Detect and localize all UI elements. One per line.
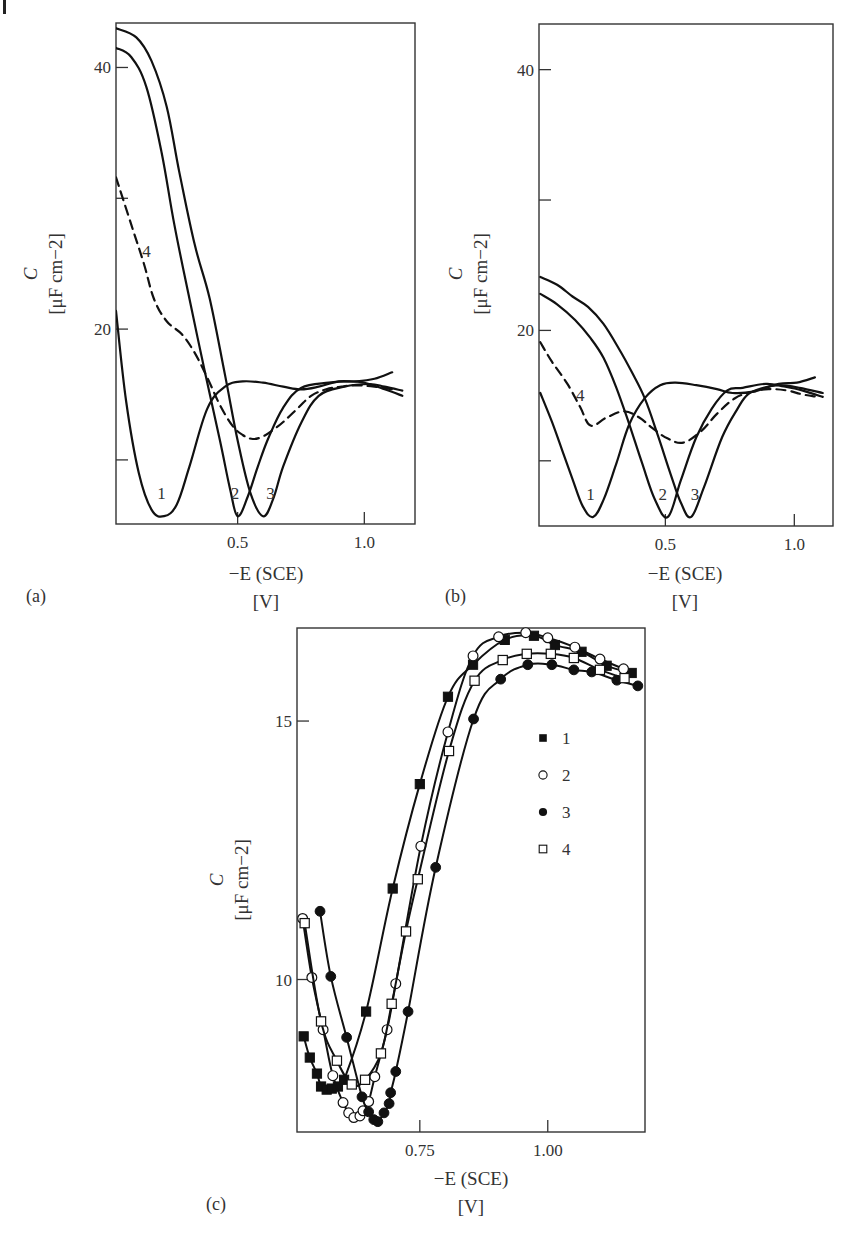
panel-b-y-axis-title: C [μF cm−2] <box>445 233 491 315</box>
panel-c-series-3-point <box>373 1117 383 1127</box>
panel-c-series-1-point <box>299 1032 308 1041</box>
panel-a-y-axis-title: C [μF cm−2] <box>20 233 66 315</box>
panel-c-series-1-point <box>415 780 424 789</box>
panel-b-curve-2 <box>540 294 822 518</box>
panel-c-series-3-point <box>326 972 336 982</box>
panel-a-curve-1-label: 1 <box>157 484 166 503</box>
panel-c-series-3-point <box>633 681 643 691</box>
panel-c-series-3-point <box>569 665 579 675</box>
panel-c-series-3-point <box>384 1099 394 1109</box>
panel-c-series-3-point <box>547 660 557 670</box>
filled-circle-marker-icon <box>539 808 547 816</box>
panel-c-series-4-point <box>316 1017 325 1026</box>
panel-c-series-3-point <box>342 1033 352 1043</box>
panel-c-series-4-point <box>444 746 453 755</box>
panel-c-series-2-point <box>619 664 629 674</box>
panel-c-x-label: −E (SCE) <box>434 1168 509 1190</box>
panel-c-series-1-point <box>305 1053 314 1062</box>
panel-c-series-1-point <box>312 1069 321 1078</box>
legend-label: 4 <box>562 840 571 859</box>
panel-c-legend: 1234 <box>539 729 571 859</box>
filled-square-marker-icon <box>539 734 547 742</box>
panel-c-y-tick-label: 10 <box>275 971 292 990</box>
panel-c-series-4-point <box>347 1080 356 1089</box>
panel-b-curve-1-label: 1 <box>586 485 595 504</box>
panel-c-series-4-line <box>305 653 625 1086</box>
panel-c-series-3-point <box>431 862 441 872</box>
panel-c-frame <box>297 628 645 1132</box>
panel-a-plot-area: 20400.51.01234 <box>94 23 415 552</box>
panel-c-x-tick-label: 1.00 <box>533 1141 563 1160</box>
panel-c-series-1-point <box>388 884 397 893</box>
panel-c-series-3-point <box>496 674 506 684</box>
panel-c-series-4-point <box>522 649 531 658</box>
panel-c-series-3-point <box>469 714 479 724</box>
panel-c-series-3-line <box>320 663 638 1122</box>
panel-c-y-unit: [μF cm−2] <box>231 839 252 921</box>
panel-c-y-axis-title: C [μF cm−2] <box>206 839 252 921</box>
panel-c-series-2-point <box>328 1071 338 1081</box>
panel-c-series-3-point <box>357 1092 367 1102</box>
panel-a-y-label: C <box>20 267 41 280</box>
panel-c-series-1-point <box>443 692 452 701</box>
panel-c-series-3-point <box>403 1007 413 1017</box>
panel-c-y-tick-label: 15 <box>275 712 292 731</box>
panel-b-x-label: −E (SCE) <box>648 563 723 585</box>
panel-c-series-4-point <box>387 999 396 1008</box>
panel-c-series-4-point <box>620 674 629 683</box>
panel-c-series-2-point <box>338 1098 348 1108</box>
panel-c-series-1-point <box>361 1007 370 1016</box>
panel-a-plot: C [μF cm−2] 20400.51.01234 −E (SCE) [V] … <box>20 23 415 612</box>
panel-a-curve-3 <box>116 28 402 516</box>
panel-c-series-4-point <box>360 1075 369 1084</box>
panel-c-series-2-point <box>570 642 580 652</box>
panel-c-series-3-point <box>391 1067 401 1077</box>
panel-a-label: (a) <box>26 586 46 607</box>
panel-b-y-unit: [μF cm−2] <box>470 233 491 315</box>
panel-c-series-4-point <box>470 676 479 685</box>
open-square-marker-icon <box>539 845 547 853</box>
panel-a-y-unit: [μF cm−2] <box>45 233 66 315</box>
panel-c-series-2-point <box>443 727 453 737</box>
panel-a-y-tick-label: 40 <box>94 58 111 77</box>
panel-b-plot: C [μF cm−2] 20400.51.01234 −E (SCE) [V] … <box>445 24 833 612</box>
panel-b-y-label: C <box>445 267 466 280</box>
panel-a-x-tick-label: 1.0 <box>354 533 375 552</box>
legend-entry-3: 3 <box>539 803 571 822</box>
panel-c-series-2-point <box>494 632 504 642</box>
panel-a-curve-2-label: 2 <box>231 484 240 503</box>
panel-c-series-3-point <box>523 660 533 670</box>
panel-c-plot-area: 10150.751.00 <box>275 628 645 1160</box>
legend-label: 1 <box>562 729 571 748</box>
panel-c-label: (c) <box>206 1194 226 1215</box>
panel-b-x-tick-label: 0.5 <box>655 535 676 554</box>
panel-c-series-3-point <box>315 906 325 916</box>
panel-a-x-label: −E (SCE) <box>229 563 304 585</box>
legend-label: 3 <box>562 803 571 822</box>
panel-b-frame <box>539 24 833 526</box>
open-circle-marker-icon <box>539 771 547 779</box>
panel-a-curve-4-label: 4 <box>142 242 151 261</box>
legend-entry-2: 2 <box>539 766 571 785</box>
panel-c-series-2-point <box>468 651 478 661</box>
panel-a-curve-2 <box>116 48 402 516</box>
panel-c-series-2-point <box>543 633 553 643</box>
legend-entry-1: 1 <box>539 729 570 748</box>
panel-c-series-4-point <box>546 649 555 658</box>
panel-c-series-4-point <box>413 875 422 884</box>
panel-c-series-4-point <box>401 927 410 936</box>
panel-b-y-tick-label: 40 <box>517 61 534 80</box>
panel-a-x-unit: [V] <box>253 591 279 612</box>
panel-c-plot: C [μF cm−2] 10150.751.00 1234 −E (SCE) [… <box>206 628 645 1217</box>
panel-b-label: (b) <box>445 586 466 607</box>
panel-b-curve-4-label: 4 <box>576 386 585 405</box>
legend-entry-4: 4 <box>539 840 571 859</box>
legend-label: 2 <box>562 766 571 785</box>
panel-c-series-4-point <box>332 1056 341 1065</box>
panel-a-frame <box>116 23 415 524</box>
panel-b-plot-area: 20400.51.01234 <box>517 24 833 554</box>
panel-c-series-1-line <box>304 635 632 1089</box>
panel-c-x-unit: [V] <box>458 1196 484 1217</box>
panel-a-y-tick-label: 20 <box>94 320 111 339</box>
figure-canvas: C [μF cm−2] 20400.51.01234 −E (SCE) [V] … <box>0 0 849 1235</box>
